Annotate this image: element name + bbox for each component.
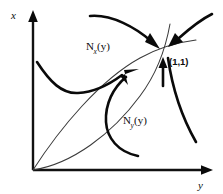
flow-arrow-upper-right [168, 14, 212, 47]
nullcline-figure: x y N x (y) N y (y) (1,1) [0, 0, 223, 194]
flow-arrow-upper-left-shaft [90, 16, 151, 41]
horizontal-axis-arrowhead [201, 165, 213, 175]
flow-arrow-upper-right-shaft [179, 14, 212, 38]
fixed-point-pointer-head [159, 57, 168, 68]
flow-arrow-upper-left-head [145, 33, 160, 49]
nullcline-y-label: N y (y) [123, 114, 147, 130]
flow-arrow-group [37, 14, 212, 156]
flow-arrow-lower-right [168, 58, 196, 142]
vertical-axis-arrowhead [28, 10, 38, 22]
nullcline-x-label: N x (y) [86, 40, 110, 56]
flow-arrow-convergence-head [120, 69, 139, 85]
flow-arrow-left-shaft [37, 62, 122, 93]
nullcline-x-label-arg: (y) [97, 40, 110, 53]
nullcline-group [33, 24, 196, 170]
fixed-point-label: (1,1) [169, 56, 189, 67]
figure-canvas: x y N x (y) N y (y) (1,1) [0, 0, 223, 194]
nullcline-y-label-arg: (y) [134, 114, 147, 127]
horizontal-axis-label: y [197, 179, 203, 191]
flow-arrow-left [37, 62, 122, 93]
flow-arrow-lower-right-shaft [168, 58, 196, 142]
vertical-axis-label: x [10, 9, 16, 21]
